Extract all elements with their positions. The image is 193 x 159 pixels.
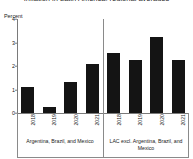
y-axis-tick-mark <box>15 66 17 67</box>
x-axis-tick-2020: 2020 <box>159 114 165 126</box>
x-axis-tick-2018: 2018 <box>116 114 122 126</box>
y-axis-tick-mark <box>15 42 17 43</box>
x-axis-band: 20182019202020212018201920202021 Argenti… <box>17 113 189 158</box>
plot-area: 01234 <box>17 19 189 114</box>
bar-chart-figure: Inflation in Latin America, regional ave… <box>0 0 193 159</box>
x-axis-tick-2021: 2021 <box>94 114 100 126</box>
bar <box>64 82 77 114</box>
group-label: Argentina, Brazil, and Mexico <box>18 138 102 144</box>
bar <box>150 37 163 114</box>
bar <box>107 53 120 113</box>
x-axis-tick-2018: 2018 <box>30 114 36 126</box>
group-label: LAC excl. Argentina, Brazil, and Mexico <box>104 138 188 151</box>
bar <box>21 87 34 113</box>
bar <box>172 60 185 113</box>
y-axis-tick-mark <box>15 90 17 91</box>
bar <box>129 60 142 114</box>
x-axis-tick-2021: 2021 <box>180 114 186 126</box>
x-axis-tick-2019: 2019 <box>137 114 143 126</box>
y-axis-tick-mark <box>15 19 17 20</box>
bar <box>86 64 99 114</box>
y-axis-line <box>17 19 18 114</box>
chart-title: Inflation in Latin America, regional ave… <box>0 0 193 1</box>
x-band-separator <box>103 113 104 158</box>
x-axis-tick-2020: 2020 <box>73 114 79 126</box>
group-divider <box>103 19 104 114</box>
x-axis-tick-2019: 2019 <box>51 114 57 126</box>
